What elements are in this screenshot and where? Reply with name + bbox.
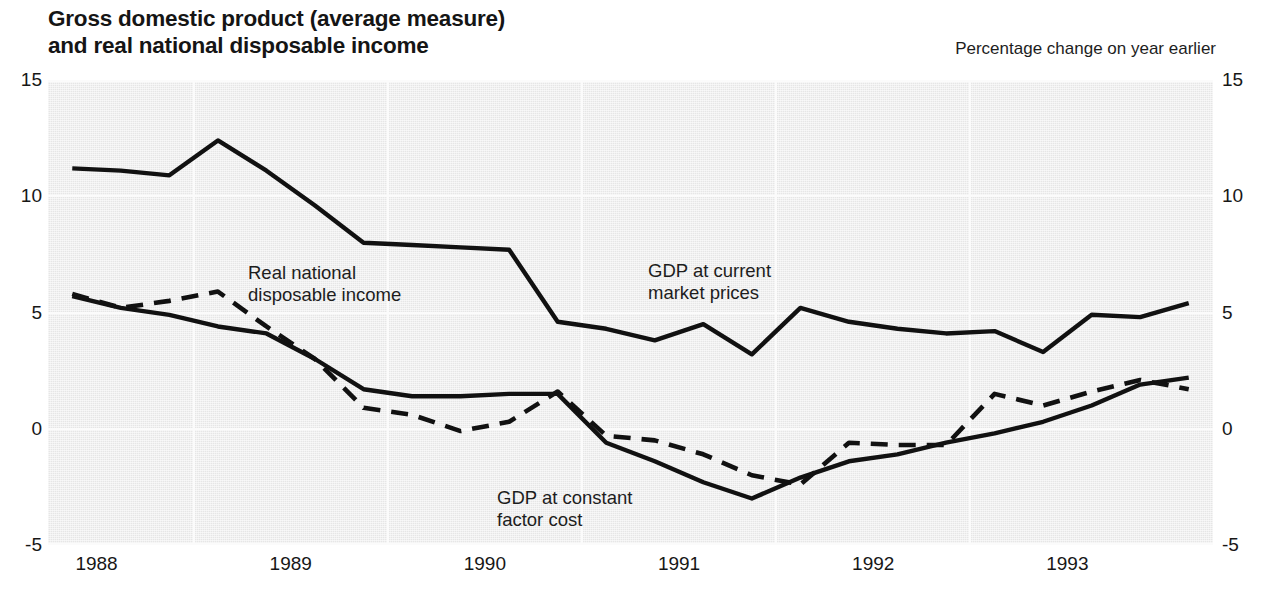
y-axis-tick-label: 0 [1222,419,1233,438]
y-axis-tick-label: 15 [21,70,42,89]
y-axis-tick-label: 5 [1222,303,1233,322]
x-axis-tick-label: 1993 [1046,554,1088,573]
x-axis-tick-label: 1992 [852,554,894,573]
x-axis-tick-label: 1989 [270,554,312,573]
series-line [72,292,1188,485]
series-layer [48,80,1213,545]
rndi-label: Real national disposable income [248,262,401,305]
series-line [72,296,1188,498]
gdp-cfc-label: GDP at constant factor cost [497,487,632,530]
y-axis-tick-label: 5 [31,303,42,322]
x-axis-tick-label: 1990 [464,554,506,573]
series-line [72,140,1188,354]
y-axis-tick-label: 10 [1222,186,1243,205]
y-axis-tick-label: 0 [31,419,42,438]
x-axis-tick-label: 1991 [658,554,700,573]
chart-figure: Gross domestic product (average measure)… [0,0,1266,589]
gdp-cmp-label: GDP at current market prices [648,260,771,303]
chart-title: Gross domestic product (average measure)… [48,6,505,60]
y-axis-tick-label: 10 [21,186,42,205]
y-axis-tick-label: 15 [1222,70,1243,89]
y-axis-tick-label: -5 [25,535,42,554]
y-axis-tick-label: -5 [1222,535,1239,554]
chart-subtitle: Percentage change on year earlier [955,39,1216,59]
x-axis-tick-label: 1988 [75,554,117,573]
plot-area [48,80,1213,545]
